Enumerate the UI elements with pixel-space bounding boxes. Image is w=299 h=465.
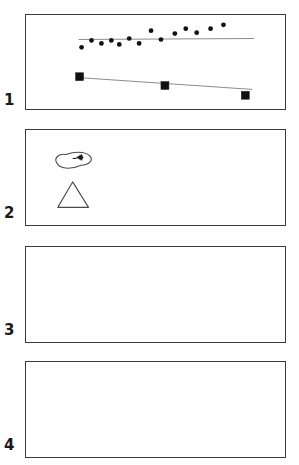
scatter-dot — [208, 26, 213, 31]
scatter-dot — [109, 38, 114, 43]
scatter-dot — [221, 22, 226, 27]
scatter-dot — [149, 28, 154, 33]
scatter-dot — [183, 26, 188, 31]
panel-3 — [25, 246, 286, 343]
scatter-dot — [159, 37, 164, 42]
triangle-shape — [58, 182, 89, 207]
panel-1-label: 1 — [4, 93, 14, 108]
figure-container: 1 2 3 4 — [0, 0, 299, 465]
scatter-dot — [79, 45, 84, 50]
panel-4-label: 4 — [4, 438, 14, 453]
scatter-dot — [194, 30, 199, 35]
square-marker — [161, 82, 169, 90]
panel-2-label: 2 — [4, 206, 14, 221]
panel-1 — [25, 14, 286, 110]
scatter-dot — [89, 38, 94, 43]
dot-trendline — [79, 39, 255, 40]
bean-blob-shape — [56, 152, 91, 168]
square-marker — [76, 73, 84, 81]
panel-2-shapes — [26, 130, 285, 225]
scatter-dot — [99, 41, 104, 46]
panel-4 — [25, 361, 286, 458]
scatter-dot — [127, 36, 132, 41]
scatter-dot — [137, 41, 142, 46]
scatter-dot — [117, 42, 122, 47]
panel-2 — [25, 129, 286, 226]
scatter-dot — [172, 31, 177, 36]
square-marker — [241, 91, 249, 99]
panel-1-plot — [26, 15, 285, 109]
panel-3-label: 3 — [4, 323, 14, 338]
